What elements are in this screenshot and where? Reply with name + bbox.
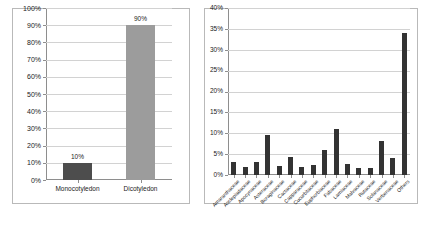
bar — [379, 141, 384, 175]
gridline — [228, 92, 410, 93]
y-axis-tick-label: 40% — [15, 108, 41, 115]
gridline — [46, 8, 172, 9]
y-tick-mark — [43, 8, 46, 9]
y-tick-mark — [225, 112, 228, 113]
x-tick-mark — [279, 175, 280, 178]
y-tick-mark — [43, 25, 46, 26]
bar — [299, 167, 304, 175]
y-axis-tick-label: 60% — [15, 73, 41, 80]
bar — [368, 168, 373, 176]
x-tick-mark — [382, 175, 383, 178]
y-axis-tick-label: 0% — [201, 172, 223, 179]
y-axis-tick-label: 100% — [15, 5, 41, 12]
x-tick-mark — [336, 175, 337, 178]
chart-left-plot-area: 0%10%20%30%40%50%60%70%80%90%100%10%Mono… — [46, 8, 172, 180]
bar — [63, 163, 92, 180]
y-tick-mark — [225, 50, 228, 51]
y-axis-tick-label: 30% — [15, 125, 41, 132]
figure-root: 0%10%20%30%40%50%60%70%80%90%100%10%Mono… — [0, 0, 428, 232]
x-axis-tick-label: Dicotyledon — [109, 186, 172, 193]
y-tick-mark — [43, 128, 46, 129]
bar — [288, 157, 293, 175]
y-axis-tick-label: 20% — [15, 142, 41, 149]
gridline — [228, 71, 410, 72]
x-tick-mark — [141, 180, 142, 183]
y-tick-mark — [225, 133, 228, 134]
bar — [265, 135, 270, 175]
y-tick-mark — [43, 60, 46, 61]
y-axis-tick-label: 10% — [15, 159, 41, 166]
bar — [334, 129, 339, 175]
bar-value-label: 90% — [126, 16, 155, 23]
y-tick-mark — [225, 154, 228, 155]
x-tick-mark — [325, 175, 326, 178]
y-tick-mark — [43, 42, 46, 43]
x-tick-mark — [245, 175, 246, 178]
bar — [254, 162, 259, 175]
y-tick-mark — [43, 111, 46, 112]
y-tick-mark — [225, 175, 228, 176]
x-tick-mark — [234, 175, 235, 178]
gridline — [228, 29, 410, 30]
y-tick-mark — [43, 94, 46, 95]
gridline — [228, 50, 410, 51]
chart-panel-left: 0%10%20%30%40%50%60%70%80%90%100%10%Mono… — [0, 0, 196, 232]
bar — [345, 164, 350, 175]
bar — [277, 166, 282, 175]
y-tick-mark — [43, 180, 46, 181]
y-axis-tick-label: 0% — [15, 177, 41, 184]
bar — [390, 158, 395, 175]
y-axis-tick-label: 20% — [201, 88, 223, 95]
y-tick-mark — [225, 71, 228, 72]
x-tick-mark — [370, 175, 371, 178]
gridline — [228, 133, 410, 134]
x-tick-mark — [291, 175, 292, 178]
y-axis-tick-label: 70% — [15, 56, 41, 63]
y-tick-mark — [43, 77, 46, 78]
y-axis-tick-label: 40% — [201, 5, 223, 12]
bar — [311, 165, 316, 175]
bar — [231, 162, 236, 175]
bar — [322, 150, 327, 175]
y-axis-tick-label: 25% — [201, 67, 223, 74]
y-axis-tick-label: 10% — [201, 130, 223, 137]
y-axis-tick-label: 50% — [15, 91, 41, 98]
y-tick-mark — [225, 29, 228, 30]
x-tick-mark — [78, 180, 79, 183]
bar — [126, 25, 155, 180]
y-axis-tick-label: 35% — [201, 26, 223, 33]
bar — [243, 167, 248, 175]
bar — [402, 33, 407, 175]
x-tick-mark — [302, 175, 303, 178]
x-tick-mark — [393, 175, 394, 178]
y-axis-tick-label: 30% — [201, 47, 223, 54]
y-tick-mark — [225, 92, 228, 93]
y-axis-tick-label: 90% — [15, 22, 41, 29]
y-axis-tick-label: 15% — [201, 109, 223, 116]
x-tick-mark — [359, 175, 360, 178]
chart-right-plot-area: 0%5%10%15%20%25%30%35%40%AmaranthaceaeAs… — [228, 8, 410, 175]
bar — [356, 168, 361, 176]
y-axis-tick-label: 80% — [15, 39, 41, 46]
x-axis-tick-label: Monocotyledon — [46, 186, 109, 193]
x-tick-mark — [268, 175, 269, 178]
y-tick-mark — [43, 163, 46, 164]
gridline — [228, 8, 410, 9]
gridline — [228, 112, 410, 113]
chart-panel-right: 0%5%10%15%20%25%30%35%40%AmaranthaceaeAs… — [196, 0, 428, 232]
y-axis-tick-label: 5% — [201, 151, 223, 158]
bar-value-label: 10% — [63, 154, 92, 161]
y-tick-mark — [225, 8, 228, 9]
y-tick-mark — [43, 146, 46, 147]
